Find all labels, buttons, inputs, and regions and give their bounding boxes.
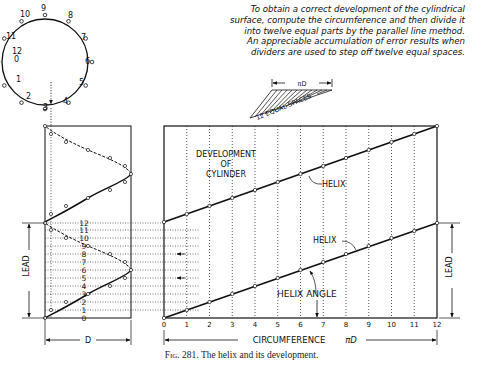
division-label-3: 3 <box>82 290 87 299</box>
division-label-6: 6 <box>82 266 87 275</box>
column-label-6: 6 <box>298 321 303 329</box>
development-title-line: CYLINDER <box>206 170 246 179</box>
helix-diagram: πD 12 EQUAL SPACES <box>0 0 483 373</box>
diameter-label: D <box>85 336 91 345</box>
division-label-2: 2 <box>82 298 87 307</box>
development-view: DEVELOPMENT OF CYLINDER HELIX HELIX HELI… <box>162 124 460 345</box>
column-label-0: 0 <box>162 321 166 329</box>
lead-label-left: LEAD <box>22 255 31 276</box>
column-label-11: 11 <box>410 321 419 329</box>
circumference-label: CIRCUMFERENCE <box>253 335 326 345</box>
division-label-0: 0 <box>82 314 87 323</box>
division-label-10: 10 <box>79 234 89 243</box>
column-label-4: 4 <box>253 321 258 329</box>
figure-caption-text: The helix and its development. <box>201 350 318 360</box>
circle-label-5: 5 <box>79 78 84 87</box>
circle-label-6: 6 <box>85 57 90 66</box>
helix-angle-label: HELIX ANGLE <box>277 289 337 299</box>
circle-label-3: 3 <box>43 103 48 112</box>
division-label-4: 4 <box>82 282 87 291</box>
construction-triangle: πD 12 EQUAL SPACES <box>250 79 332 122</box>
development-title-line: DEVELOPMENT <box>196 150 256 159</box>
division-label-5: 5 <box>82 274 87 283</box>
column-label-1: 1 <box>185 321 189 329</box>
circle-label-0: 0 <box>14 55 19 64</box>
circle-label-9: 9 <box>41 4 46 13</box>
circle-label-1: 1 <box>16 75 21 84</box>
division-label-12: 12 <box>79 219 89 228</box>
column-label-3: 3 <box>230 321 234 329</box>
pi-d-label: πD <box>298 80 307 88</box>
circle-label-4: 4 <box>63 97 68 106</box>
division-label-1: 1 <box>82 306 87 315</box>
development-title-line: OF <box>221 160 232 169</box>
division-label-7: 7 <box>82 258 87 267</box>
division-label-8: 8 <box>82 250 87 259</box>
column-label-5: 5 <box>276 321 280 329</box>
column-label-10: 10 <box>387 321 396 329</box>
circle-label-11: 11 <box>6 32 16 41</box>
figure-number: Fig. 281. <box>165 350 199 360</box>
top-view-circle: 12 0 1 2 3 4 5 6 7 8 9 10 11 <box>0 4 94 126</box>
circle-label-7: 7 <box>81 33 86 42</box>
circle-label-8: 8 <box>68 11 73 20</box>
circle-label-2: 2 <box>26 92 31 101</box>
column-label-9: 9 <box>367 321 371 329</box>
helix-lower-label: HELIX <box>313 236 337 245</box>
lead-label-right: LEAD <box>445 256 454 277</box>
column-label-2: 2 <box>207 321 211 329</box>
column-label-12: 12 <box>433 321 442 329</box>
circumference-symbol: πD <box>345 335 357 345</box>
helix-upper-label: HELIX <box>322 180 346 189</box>
cylinder-front-view: 0 1 2 3 4 5 6 7 8 9 10 11 12 LEAD D <box>22 124 200 345</box>
figure-caption: Fig. 281. The helix and its development. <box>0 350 483 360</box>
circle-label-10: 10 <box>20 10 30 19</box>
column-label-7: 7 <box>321 321 325 329</box>
division-label-9: 9 <box>82 242 87 251</box>
column-label-8: 8 <box>344 321 348 329</box>
